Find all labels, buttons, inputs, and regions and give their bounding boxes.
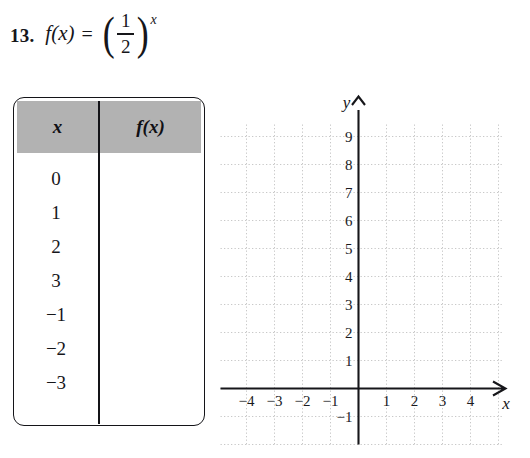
x-tick-label: −1 bbox=[323, 393, 339, 409]
x-tick-label: 4 bbox=[467, 393, 475, 409]
x-tick-label: −2 bbox=[295, 393, 311, 409]
x-value-column: 0 1 2 3 −1 −2 −3 bbox=[14, 153, 98, 400]
exponent: x bbox=[150, 12, 156, 28]
x-tick-label: 2 bbox=[411, 393, 419, 409]
table-row: 3 bbox=[14, 264, 98, 298]
y-tick-label: 9 bbox=[345, 129, 353, 145]
equals-sign: = bbox=[82, 23, 93, 45]
grid-lines bbox=[221, 125, 503, 445]
table-row: −1 bbox=[14, 298, 98, 332]
fraction-denominator: 2 bbox=[119, 36, 133, 57]
y-axis-label: y bbox=[341, 93, 351, 112]
answer-blank[interactable] bbox=[100, 162, 204, 196]
fx-value-column bbox=[100, 153, 204, 400]
left-paren: ( bbox=[102, 16, 114, 52]
value-table: x f(x) 0 1 2 3 −1 −2 −3 bbox=[13, 97, 205, 426]
table-row: −2 bbox=[14, 332, 98, 366]
function-notation: f(x) bbox=[45, 22, 74, 46]
y-tick-label: 6 bbox=[345, 213, 353, 229]
fraction-one-half: 12 bbox=[117, 11, 134, 56]
table-row: 1 bbox=[14, 196, 98, 230]
x-tick-label: 1 bbox=[383, 393, 391, 409]
table-header-row: x f(x) bbox=[17, 101, 201, 153]
answer-blank[interactable] bbox=[100, 366, 204, 400]
table-body: 0 1 2 3 −1 −2 −3 bbox=[14, 153, 204, 424]
y-tick-label: 5 bbox=[345, 241, 353, 257]
answer-blank[interactable] bbox=[100, 196, 204, 230]
power-expression: (12)x bbox=[101, 11, 157, 56]
right-paren: ) bbox=[137, 16, 149, 52]
fraction-numerator: 1 bbox=[119, 11, 133, 32]
y-tick-label: 8 bbox=[345, 157, 353, 173]
answer-blank[interactable] bbox=[100, 230, 204, 264]
fraction-bar bbox=[117, 33, 134, 35]
problem-statement: 13. f(x)=(12)x bbox=[10, 8, 157, 64]
coordinate-grid[interactable]: −4−3−2−11234987654321−1 yx bbox=[219, 86, 519, 454]
answer-blank[interactable] bbox=[100, 332, 204, 366]
table-row: −3 bbox=[14, 366, 98, 400]
table-row: 0 bbox=[14, 162, 98, 196]
y-tick-label: 7 bbox=[345, 185, 353, 201]
graph-svg[interactable]: −4−3−2−11234987654321−1 yx bbox=[219, 86, 519, 454]
answer-blank[interactable] bbox=[100, 264, 204, 298]
function-expression: f(x)=(12)x bbox=[45, 13, 156, 58]
column-header-x: x bbox=[17, 101, 98, 153]
y-axis-arrow bbox=[352, 97, 365, 106]
y-tick-label: 3 bbox=[345, 297, 353, 313]
exercise-page: 13. f(x)=(12)x x f(x) 0 1 2 3 −1 −2 −3 bbox=[0, 0, 530, 458]
answer-blank[interactable] bbox=[100, 298, 204, 332]
y-tick-label: 1 bbox=[345, 353, 353, 369]
column-header-fx: f(x) bbox=[100, 101, 201, 153]
y-tick-label: 4 bbox=[345, 269, 353, 285]
y-tick-label: −1 bbox=[337, 409, 353, 425]
axis-names: yx bbox=[341, 93, 511, 413]
problem-number: 13. bbox=[10, 25, 34, 47]
x-axis-label: x bbox=[501, 394, 510, 413]
x-tick-label: −3 bbox=[267, 393, 283, 409]
x-tick-label: 3 bbox=[439, 393, 447, 409]
y-tick-label: 2 bbox=[345, 325, 353, 341]
axes bbox=[221, 97, 506, 445]
x-tick-label: −4 bbox=[239, 393, 255, 409]
table-row: 2 bbox=[14, 230, 98, 264]
